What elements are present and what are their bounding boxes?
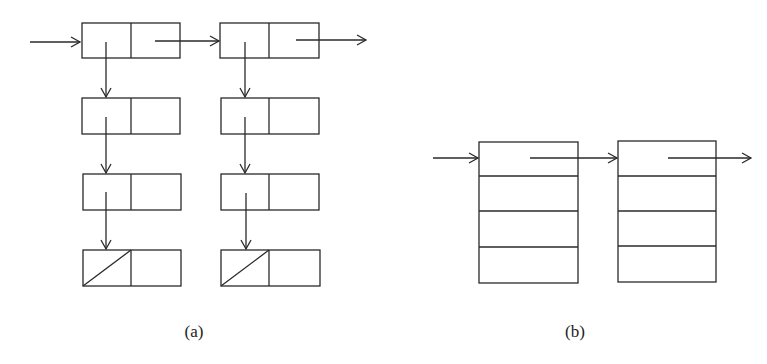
block-1 <box>479 142 578 283</box>
null-pointer-diagonal <box>221 250 269 286</box>
node-1-4-null <box>83 250 181 286</box>
block-2 <box>618 141 716 282</box>
diagram-canvas <box>0 0 767 364</box>
caption-a: (a) <box>185 322 204 342</box>
list-column-2 <box>220 23 320 286</box>
caption-b: (b) <box>565 322 585 342</box>
null-pointer-diagonal <box>83 250 131 286</box>
node-2-3 <box>221 174 319 210</box>
part-b-diagram <box>433 141 751 283</box>
part-a-diagram <box>30 23 366 286</box>
node-1-3 <box>83 174 181 210</box>
list-column-1 <box>82 23 181 286</box>
node-2-4-null <box>221 250 320 286</box>
node-2-2 <box>221 98 319 134</box>
